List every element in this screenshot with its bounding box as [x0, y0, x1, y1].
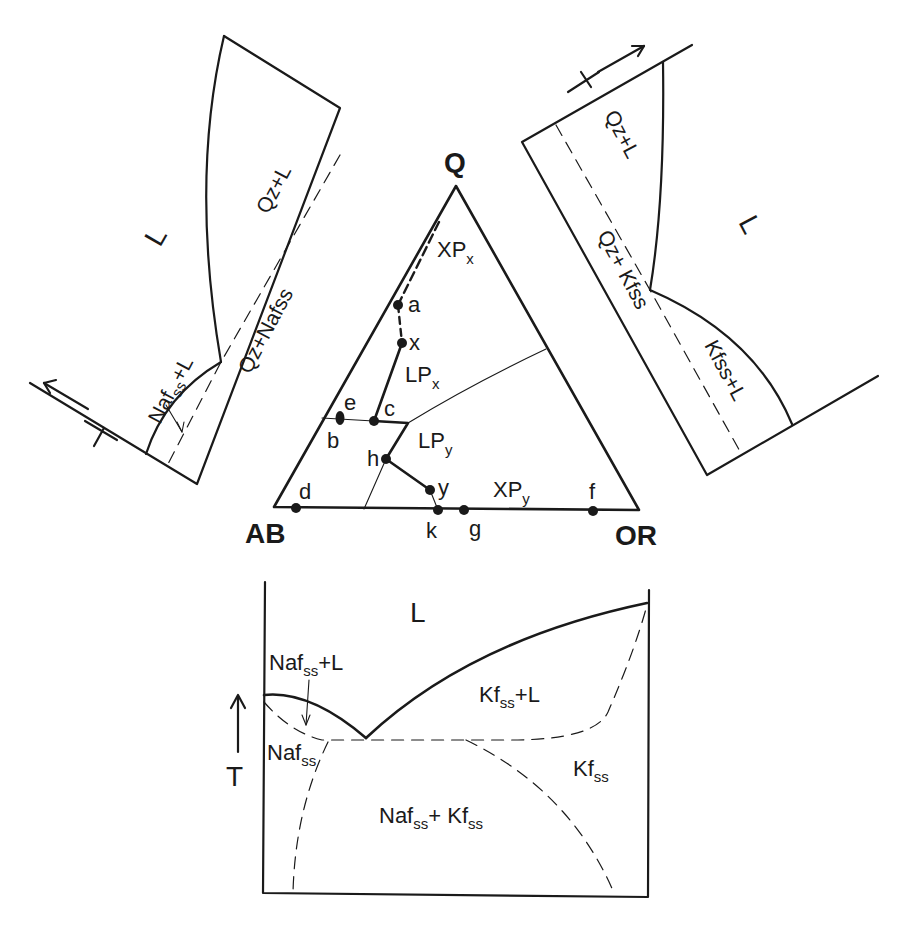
- binary-field-naf-kf: Nafss+ Kfss: [379, 803, 483, 832]
- right-liquidus-qz: [650, 62, 663, 290]
- right-t-axis-glyph: [568, 72, 599, 92]
- binary-field-kf-l: Kfss+L: [479, 682, 540, 711]
- label-y: y: [438, 475, 449, 500]
- label-d: d: [299, 479, 311, 504]
- right-section: Qz+L L Qz+ Kfss Kfss+L: [522, 45, 878, 475]
- point-k: [433, 505, 443, 515]
- left-section-outline: [30, 36, 340, 484]
- right-section-outline: [522, 45, 878, 475]
- left-section: L Qz+L Qz+Nafss Nafss+L: [30, 36, 340, 484]
- left-liquid-label: L: [138, 222, 173, 251]
- binary-liquid-label: L: [410, 597, 426, 628]
- apex-ab-label: AB: [245, 518, 285, 549]
- label-e: e: [344, 390, 356, 415]
- binary-liquidus-naf: [264, 695, 366, 738]
- label-a: a: [408, 292, 421, 317]
- right-t-arrow: [598, 46, 644, 72]
- field-xpx: XPx: [437, 237, 474, 267]
- label-x: x: [409, 330, 420, 355]
- label-f: f: [589, 479, 596, 504]
- binary-field-naf-l: Nafss+L: [269, 650, 343, 679]
- field-xpy: XPy: [493, 477, 530, 507]
- point-c: [369, 416, 379, 426]
- point-g: [459, 505, 469, 515]
- binary-field-kf: Kfss: [573, 756, 609, 785]
- binary-t-label: T: [226, 761, 243, 792]
- right-field-qz-l: Qz+L: [600, 106, 644, 162]
- binary-liquidus-kf: [366, 603, 647, 738]
- binary-field-naf: Nafss: [267, 740, 316, 769]
- left-field-qz-naf: Qz+Nafss: [233, 284, 297, 377]
- right-field-qz-kf: Qz+ Kfss: [593, 226, 654, 313]
- path-a-to-x: [398, 305, 402, 343]
- ternary-diagram: Q AB OR XPx LPx LPy XPy a x c e b h y d …: [245, 147, 657, 551]
- label-g: g: [469, 516, 481, 541]
- point-h: [381, 454, 391, 464]
- left-liquidus-qz: [206, 36, 224, 362]
- label-c: c: [384, 396, 395, 421]
- point-a: [393, 300, 403, 310]
- right-liquid-label: L: [733, 210, 768, 238]
- label-k: k: [426, 518, 438, 543]
- apex-q-label: Q: [444, 147, 466, 178]
- label-h: h: [367, 446, 379, 471]
- label-b: b: [327, 428, 339, 453]
- point-y: [425, 485, 435, 495]
- field-lpy: LPy: [418, 428, 453, 458]
- left-field-qz-l: Qz+L: [251, 161, 295, 217]
- binary-section: T L Nafss+L Nafss Kfss+L Kfss Nafss+ Kfs…: [226, 582, 649, 897]
- apex-or-label: OR: [615, 520, 657, 551]
- point-x: [397, 338, 407, 348]
- point-d: [291, 503, 301, 513]
- point-f: [588, 506, 598, 516]
- field-lpx: LPx: [405, 362, 440, 392]
- phase-diagram-figure: Q AB OR XPx LPx LPy XPy a x c e b h y d …: [0, 0, 904, 931]
- ternary-triangle: [274, 186, 639, 510]
